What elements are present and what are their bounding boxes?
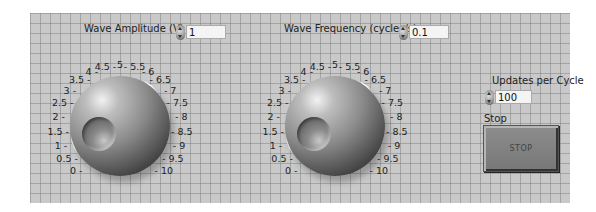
- dial-tick-label: 3 -: [279, 84, 292, 95]
- dial-tick-label: 2.5 -: [52, 97, 74, 108]
- amplitude-knob[interactable]: [70, 76, 170, 176]
- dial-tick-label: 1 -: [55, 140, 68, 151]
- dial-tick-label: 2 -: [53, 111, 66, 122]
- dial-tick-label: - 6.5: [364, 73, 386, 84]
- dial-tick-label: 1 -: [270, 140, 283, 151]
- dial-tick-label: - 10: [370, 164, 389, 175]
- dial-tick-label: - 9: [173, 140, 186, 151]
- dial-tick-label: 0.5 -: [56, 153, 78, 164]
- dial-tick-label: 3 -: [64, 84, 77, 95]
- frequency-knob[interactable]: [285, 76, 385, 176]
- dial-tick-label: 1.5 -: [262, 125, 284, 136]
- stop-button[interactable]: STOP: [483, 125, 559, 172]
- stop-label: Stop: [484, 113, 507, 124]
- dial-tick-label: 5: [117, 59, 123, 70]
- updates-input[interactable]: 100: [495, 90, 532, 104]
- updates-spinner-icon[interactable]: [485, 90, 494, 105]
- dial-tick-label: - 7: [164, 84, 177, 95]
- knob-dimple-icon: [297, 117, 331, 151]
- dial-tick-label: - 8: [175, 111, 188, 122]
- amplitude-knob-container: 0 -0.5 -1 -1.5 -2 -2.5 -3 -3.5 -4 -4.5 -…: [20, 26, 220, 212]
- frequency-knob-container: 0 -0.5 -1 -1.5 -2 -2.5 -3 -3.5 -4 -4.5 -…: [235, 26, 435, 212]
- dial-tick-label: 2 -: [268, 111, 281, 122]
- knob-dimple-icon: [82, 117, 116, 151]
- dial-tick-label: - 7: [379, 84, 392, 95]
- dial-tick-label: 4.5 -: [95, 60, 117, 71]
- dial-tick-label: 4.5 -: [310, 60, 332, 71]
- dial-tick-label: 0.5 -: [271, 153, 293, 164]
- dial-tick-label: - 8.5: [386, 125, 408, 136]
- dial-tick-label: - 9.5: [377, 153, 399, 164]
- dial-tick-label: - 8: [390, 111, 403, 122]
- dial-tick-label: - 7.5: [381, 97, 403, 108]
- front-panel: Wave Amplitude (V) 1 0 -0.5 -1 -1.5 -2 -…: [30, 13, 570, 203]
- dial-tick-label: 5: [332, 59, 338, 70]
- dial-tick-label: - 10: [155, 164, 174, 175]
- dial-tick-label: - 9.5: [162, 153, 184, 164]
- dial-tick-label: - 9: [388, 140, 401, 151]
- dial-tick-label: 0 -: [285, 164, 298, 175]
- dial-tick-label: 2.5 -: [267, 97, 289, 108]
- dial-tick-label: - 7.5: [166, 97, 188, 108]
- dial-tick-label: 1.5 -: [47, 125, 69, 136]
- dial-tick-label: - 6.5: [149, 73, 171, 84]
- dial-tick-label: 0 -: [70, 164, 83, 175]
- dial-tick-label: - 8.5: [171, 125, 193, 136]
- updates-label: Updates per Cycle: [492, 75, 584, 86]
